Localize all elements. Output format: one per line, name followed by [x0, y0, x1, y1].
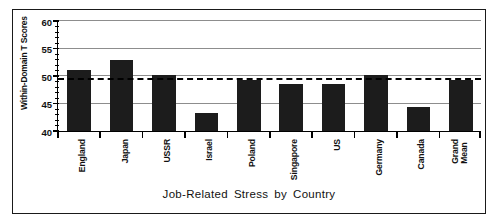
x-tick-4 [227, 132, 229, 138]
y-tick-label-50: 50 [30, 73, 52, 83]
x-tick-end [479, 132, 481, 138]
x-label-singapore: Singapore [269, 139, 311, 187]
bar-poland [237, 80, 261, 131]
x-label-text: Poland [248, 139, 257, 167]
x-label-us: US [311, 139, 353, 187]
x-label-text: US [333, 139, 342, 151]
bar-israel [195, 113, 219, 131]
x-label-japan: Japan [99, 139, 141, 187]
y-tick-label-45: 45 [30, 100, 52, 110]
x-tick-8 [396, 132, 398, 138]
x-axis-category-labels: EnglandJapanUSSRIsraelPolandSingaporeUSG… [57, 139, 481, 187]
x-label-text: Japan [121, 139, 130, 163]
x-label-text: England [78, 139, 87, 172]
chart-figure: Within-Domain T Scores 6055504540 Englan… [0, 0, 498, 223]
bar-canada [407, 107, 431, 131]
bar-japan [110, 60, 134, 132]
x-label-text: Singapore [290, 139, 299, 180]
x-tick-2 [142, 132, 144, 138]
x-label-grand-mean: GrandMean [439, 139, 481, 187]
bar-series [58, 22, 481, 131]
plot-area [57, 22, 481, 132]
x-axis-ticks [57, 132, 481, 139]
gridline-60 [58, 20, 481, 21]
x-label-germany: Germany [354, 139, 396, 187]
x-tick-0 [57, 132, 59, 138]
bar-ussr [152, 75, 176, 131]
bar-grand-mean [449, 80, 473, 131]
bar-germany [364, 75, 388, 131]
x-label-text: Israel [205, 139, 214, 161]
x-label-england: England [57, 139, 99, 187]
x-tick-1 [99, 132, 101, 138]
x-label-text: GrandMean [451, 139, 469, 164]
y-tick-label-40: 40 [30, 128, 52, 138]
x-label-ussr: USSR [142, 139, 184, 187]
reference-line-grand-mean [58, 78, 481, 80]
x-label-text: USSR [163, 139, 172, 162]
x-label-israel: Israel [184, 139, 226, 187]
x-label-text: Germany [375, 139, 384, 176]
x-axis-title: Job-Related Stress by Country [0, 188, 498, 200]
x-tick-9 [439, 132, 441, 138]
x-label-poland: Poland [227, 139, 269, 187]
bar-singapore [279, 84, 303, 131]
x-tick-5 [269, 132, 271, 138]
x-label-text: Canada [417, 139, 426, 169]
y-axis-tick-labels: 6055504540 [28, 22, 52, 132]
x-label-canada: Canada [396, 139, 438, 187]
y-tick-label-60: 60 [30, 18, 52, 28]
x-tick-3 [184, 132, 186, 138]
bar-us [322, 84, 346, 131]
y-tick-label-55: 55 [30, 45, 52, 55]
x-tick-7 [354, 132, 356, 138]
x-tick-6 [311, 132, 313, 138]
